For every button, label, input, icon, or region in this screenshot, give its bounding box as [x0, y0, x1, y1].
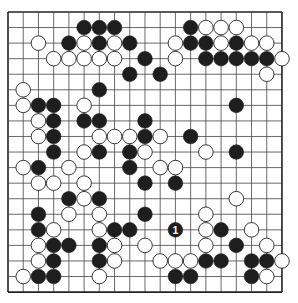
black-stone: [229, 36, 244, 51]
black-stone: [244, 51, 259, 66]
white-stone: [77, 145, 92, 160]
black-stone: [92, 83, 107, 98]
white-stone: [31, 238, 46, 253]
black-stone: [92, 114, 107, 129]
white-stone: [244, 36, 259, 51]
black-stone: [31, 223, 46, 238]
white-stone: [62, 207, 77, 222]
black-stone: [153, 67, 168, 82]
black-stone: [92, 254, 107, 269]
black-stone: [199, 254, 214, 269]
white-stone: [183, 254, 198, 269]
white-stone: [275, 254, 290, 269]
black-stone: [138, 114, 153, 129]
black-stone: [77, 114, 92, 129]
black-stone: [46, 269, 61, 284]
white-stone: [214, 20, 229, 35]
black-stone: [122, 145, 137, 160]
white-stone: [77, 36, 92, 51]
black-stone: [122, 160, 137, 175]
white-stone: [229, 20, 244, 35]
white-stone: [199, 238, 214, 253]
go-board[interactable]: 1: [0, 0, 298, 303]
black-stone: [183, 269, 198, 284]
white-stone: [229, 191, 244, 206]
black-stone: [214, 254, 229, 269]
black-stone: [214, 223, 229, 238]
black-stone: [244, 254, 259, 269]
white-stone: [275, 51, 290, 66]
black-stone: [199, 51, 214, 66]
white-stone: [153, 129, 168, 144]
white-stone: [107, 129, 122, 144]
black-stone: [77, 20, 92, 35]
black-stone: [259, 254, 274, 269]
white-stone: [46, 176, 61, 191]
black-stone: [62, 36, 77, 51]
black-stone: [244, 269, 259, 284]
black-stone: [183, 129, 198, 144]
white-stone: [31, 254, 46, 269]
black-stone: [46, 238, 61, 253]
white-stone: [77, 176, 92, 191]
black-stone: [92, 36, 107, 51]
black-stone: [46, 145, 61, 160]
black-stone: [138, 129, 153, 144]
black-stone: [92, 191, 107, 206]
white-stone: [168, 51, 183, 66]
white-stone: [92, 223, 107, 238]
black-stone: [199, 36, 214, 51]
white-stone: [16, 83, 31, 98]
white-stone: [62, 51, 77, 66]
black-stone: [229, 98, 244, 113]
black-stone: [62, 191, 77, 206]
white-stone: [199, 145, 214, 160]
white-stone: [168, 160, 183, 175]
black-stone: [31, 160, 46, 175]
black-stone: [107, 20, 122, 35]
white-stone: [244, 223, 259, 238]
white-stone: [259, 238, 274, 253]
white-stone: [92, 129, 107, 144]
white-stone: [153, 160, 168, 175]
black-stone: [62, 238, 77, 253]
white-stone: [153, 254, 168, 269]
white-stone: [77, 191, 92, 206]
white-stone: [259, 269, 274, 284]
white-stone: [31, 36, 46, 51]
white-stone: [16, 160, 31, 175]
white-stone: [168, 254, 183, 269]
white-stone: [92, 207, 107, 222]
white-stone: [122, 129, 137, 144]
black-stone: [229, 145, 244, 160]
black-stone: [183, 36, 198, 51]
white-stone: [31, 176, 46, 191]
white-stone: [16, 269, 31, 284]
black-stone: [214, 51, 229, 66]
white-stone: [199, 207, 214, 222]
white-stone: [107, 51, 122, 66]
white-stone: [31, 129, 46, 144]
black-stone: [122, 67, 137, 82]
black-stone: [107, 223, 122, 238]
white-stone: [259, 67, 274, 82]
white-stone: [77, 98, 92, 113]
white-stone: [46, 223, 61, 238]
white-stone: [138, 238, 153, 253]
black-stone: [46, 98, 61, 113]
black-stone: [168, 269, 183, 284]
go-board-grid[interactable]: 1: [0, 0, 298, 303]
black-stone: [92, 20, 107, 35]
black-stone: [183, 20, 198, 35]
black-stone: [138, 51, 153, 66]
black-stone: [122, 223, 137, 238]
black-stone: [92, 145, 107, 160]
black-stone: [229, 238, 244, 253]
white-stone: [62, 160, 77, 175]
black-stone: [168, 176, 183, 191]
white-stone: [92, 51, 107, 66]
white-stone: [138, 145, 153, 160]
black-stone: [46, 114, 61, 129]
black-stone: [259, 51, 274, 66]
white-stone: [259, 36, 274, 51]
